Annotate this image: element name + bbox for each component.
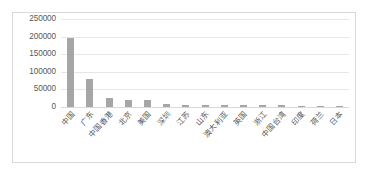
bar-slot (157, 19, 176, 107)
bar-slot (291, 19, 310, 107)
x-axis-slot: 印度 (291, 108, 310, 162)
bar (144, 100, 151, 107)
x-axis-tick-label: 中国 (60, 110, 77, 127)
x-axis-slot: 中国香港 (99, 108, 118, 162)
bar (259, 105, 266, 107)
x-axis-tick-label: 日本 (329, 110, 346, 127)
bar-slot (99, 19, 118, 107)
bar (221, 105, 228, 107)
bar-series (61, 19, 349, 107)
bar (86, 79, 93, 107)
bar-slot (234, 19, 253, 107)
y-axis-tick-label: 150000 (12, 50, 56, 58)
chart-card: 050000100000150000200000250000 中国广东中国香港北… (12, 12, 356, 163)
x-axis-slot: 中国 (61, 108, 80, 162)
x-axis-slot: 江苏 (176, 108, 195, 162)
x-axis-tick-label: 江苏 (175, 110, 192, 127)
bar (202, 105, 209, 107)
x-axis: 中国广东中国香港北京美国深圳江苏山东澳大利亚英国浙江中国台湾印度荷兰日本 (61, 108, 349, 162)
bar-slot (80, 19, 99, 107)
bar (278, 105, 285, 107)
x-axis-slot: 澳大利亚 (215, 108, 234, 162)
bar-slot (272, 19, 291, 107)
bar-slot (253, 19, 272, 107)
bar (317, 106, 324, 107)
y-axis: 050000100000150000200000250000 (13, 19, 59, 107)
x-axis-slot: 美国 (138, 108, 157, 162)
bar (67, 38, 74, 107)
bar-slot (138, 19, 157, 107)
bar (163, 104, 170, 107)
bar-slot (330, 19, 349, 107)
bar (336, 106, 343, 107)
x-axis-slot: 英国 (234, 108, 253, 162)
x-axis-tick-label: 英国 (233, 110, 250, 127)
x-axis-slot: 荷兰 (311, 108, 330, 162)
bar (125, 100, 132, 107)
y-axis-tick-label: 50000 (12, 85, 56, 93)
bar (106, 98, 113, 108)
bar-slot (61, 19, 80, 107)
x-axis-slot: 北京 (119, 108, 138, 162)
bar (182, 105, 189, 107)
x-axis-tick-label: 北京 (117, 110, 134, 127)
y-axis-tick-label: 0 (12, 103, 56, 111)
bar-slot (215, 19, 234, 107)
bar-slot (119, 19, 138, 107)
x-axis-tick-label: 印度 (290, 110, 307, 127)
x-axis-slot: 中国台湾 (272, 108, 291, 162)
x-axis-tick-label: 荷兰 (310, 110, 327, 127)
x-axis-tick-label: 深圳 (156, 110, 173, 127)
y-axis-tick-label: 200000 (12, 32, 56, 40)
x-axis-tick-label: 美国 (137, 110, 154, 127)
y-axis-tick-label: 100000 (12, 68, 56, 76)
bar (240, 105, 247, 107)
bar (298, 106, 305, 107)
y-axis-tick-label: 250000 (12, 15, 56, 23)
bar-slot (311, 19, 330, 107)
chart-plot-area: 050000100000150000200000250000 中国广东中国香港北… (13, 13, 355, 162)
bar-slot (176, 19, 195, 107)
x-axis-slot: 日本 (330, 108, 349, 162)
bar-slot (195, 19, 214, 107)
x-axis-slot: 深圳 (157, 108, 176, 162)
